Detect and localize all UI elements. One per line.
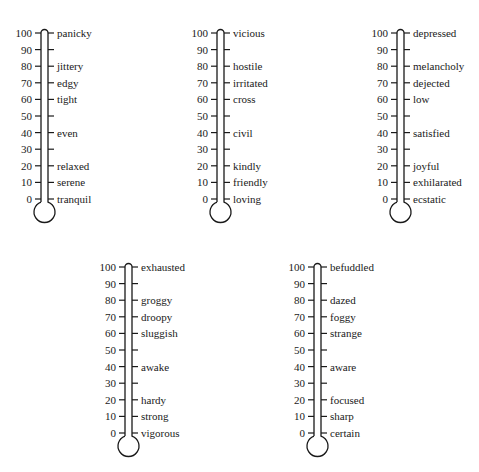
scale-value: 90 (178, 44, 208, 56)
scale-value: 20 (358, 160, 388, 172)
scale-value: 20 (2, 160, 32, 172)
mood-label: awake (141, 361, 169, 373)
scale-value: 20 (86, 394, 116, 406)
scale-value: 60 (2, 93, 32, 105)
scale-value: 90 (358, 44, 388, 56)
scale-value: 60 (86, 327, 116, 339)
scale-value: 70 (358, 77, 388, 89)
scale-value: 30 (178, 143, 208, 155)
scale-value: 20 (178, 160, 208, 172)
scale-value: 90 (275, 278, 305, 290)
scale-value: 40 (86, 361, 116, 373)
mood-label: tranquil (57, 193, 91, 205)
scale-value: 100 (2, 27, 32, 39)
mood-label: dazed (330, 294, 356, 306)
mood-label: melancholy (413, 60, 464, 72)
scale-value: 60 (358, 93, 388, 105)
scale-value: 10 (178, 176, 208, 188)
scale-value: 30 (358, 143, 388, 155)
mood-label: sluggish (141, 327, 178, 339)
mood-label: hardy (141, 394, 166, 406)
scale-value: 60 (275, 327, 305, 339)
scale-value: 10 (86, 410, 116, 422)
scale-value: 100 (178, 27, 208, 39)
scale-value: 50 (86, 344, 116, 356)
mood-label: low (413, 93, 430, 105)
thermometer-fatigue: 100exhausted9080groggy70droopy60sluggish… (92, 261, 252, 472)
mood-label: groggy (141, 294, 172, 306)
scale-value: 100 (86, 261, 116, 273)
scale-value: 50 (2, 110, 32, 122)
scale-value: 50 (275, 344, 305, 356)
mood-label: hostile (233, 60, 262, 72)
scale-value: 30 (275, 377, 305, 389)
scale-value: 30 (2, 143, 32, 155)
mood-label: kindly (233, 160, 261, 172)
mood-label: strong (141, 410, 169, 422)
mood-label: civil (233, 127, 253, 139)
scale-value: 70 (275, 311, 305, 323)
mood-label: aware (330, 361, 356, 373)
scale-value: 40 (2, 127, 32, 139)
mood-label: foggy (330, 311, 356, 323)
mood-label: vicious (233, 27, 265, 39)
mood-label: certain (330, 427, 360, 439)
scale-value: 90 (2, 44, 32, 56)
scale-value: 80 (2, 60, 32, 72)
scale-value: 40 (358, 127, 388, 139)
mood-label: even (57, 127, 78, 139)
scale-value: 70 (86, 311, 116, 323)
scale-value: 100 (358, 27, 388, 39)
scale-value: 50 (178, 110, 208, 122)
mood-label: dejected (413, 77, 450, 89)
scale-value: 0 (358, 193, 388, 205)
scale-value: 0 (86, 427, 116, 439)
scale-value: 80 (275, 294, 305, 306)
scale-value: 20 (275, 394, 305, 406)
mood-label: relaxed (57, 160, 89, 172)
scale-value: 0 (275, 427, 305, 439)
mood-label: friendly (233, 176, 268, 188)
mood-label: serene (57, 176, 85, 188)
thermometer-icon (8, 27, 168, 242)
mood-label: droopy (141, 311, 172, 323)
scale-value: 10 (2, 176, 32, 188)
mood-label: satisfied (413, 127, 450, 139)
mood-label: irritated (233, 77, 268, 89)
mood-label: depressed (413, 27, 456, 39)
scale-value: 80 (358, 60, 388, 72)
thermometer-icon (92, 261, 252, 472)
scale-value: 70 (178, 77, 208, 89)
scale-value: 0 (178, 193, 208, 205)
scale-value: 10 (358, 176, 388, 188)
thermometer-depression: 100depressed9080melancholy70dejected60lo… (364, 27, 479, 242)
mood-label: jittery (57, 60, 83, 72)
thermometer-icon (281, 261, 441, 472)
thermometer-icon (184, 27, 344, 242)
scale-value: 0 (2, 193, 32, 205)
scale-value: 40 (275, 361, 305, 373)
mood-label: cross (233, 93, 256, 105)
thermometer-anxiety: 100panicky9080jittery70edgy60tight5040ev… (8, 27, 168, 242)
thermometer-anger: 100vicious9080hostile70irritated60cross5… (184, 27, 344, 242)
mood-label: panicky (57, 27, 92, 39)
mood-label: loving (233, 193, 261, 205)
scale-value: 50 (358, 110, 388, 122)
mood-label: befuddled (330, 261, 374, 273)
scale-value: 30 (86, 377, 116, 389)
scale-value: 60 (178, 93, 208, 105)
mood-label: tight (57, 93, 77, 105)
thermometer-confusion: 100befuddled9080dazed70foggy60strange504… (281, 261, 441, 472)
scale-value: 70 (2, 77, 32, 89)
mood-label: sharp (330, 410, 354, 422)
mood-label: focused (330, 394, 364, 406)
mood-label: exhausted (141, 261, 185, 273)
scale-value: 80 (178, 60, 208, 72)
scale-value: 90 (86, 278, 116, 290)
mood-label: joyful (413, 160, 439, 172)
scale-value: 40 (178, 127, 208, 139)
scale-value: 10 (275, 410, 305, 422)
mood-label: exhilarated (413, 176, 462, 188)
scale-value: 80 (86, 294, 116, 306)
mood-label: edgy (57, 77, 78, 89)
